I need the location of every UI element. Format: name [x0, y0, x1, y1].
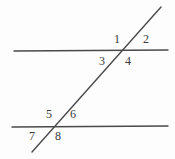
angle-label-3: 3	[99, 55, 105, 67]
transversal-line	[32, 7, 161, 152]
top-parallel-line	[14, 50, 168, 51]
geometry-canvas	[0, 0, 175, 159]
angle-label-6: 6	[70, 108, 76, 120]
angle-label-5: 5	[46, 108, 52, 120]
geometry-figure: 1 2 3 4 5 6 7 8	[0, 0, 175, 159]
angle-label-1: 1	[114, 33, 120, 45]
angle-label-7: 7	[29, 130, 35, 142]
angle-label-2: 2	[143, 33, 149, 45]
angle-label-4: 4	[125, 55, 131, 67]
angle-label-8: 8	[55, 130, 61, 142]
bottom-parallel-line	[12, 126, 168, 127]
